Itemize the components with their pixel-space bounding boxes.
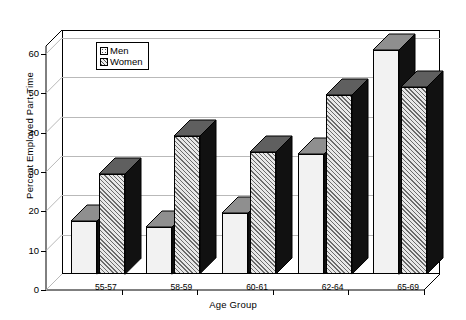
bar-women-60-61 — [250, 152, 276, 274]
x-axis-title: Age Group — [0, 299, 466, 310]
bar-front-face — [99, 174, 125, 274]
legend-item-men: Men — [100, 45, 143, 56]
bar-front-face — [71, 221, 97, 274]
x-tick-label: 62-64 — [303, 282, 363, 292]
bar-men-65-69 — [373, 50, 399, 274]
x-tick-mark — [348, 290, 349, 295]
y-tick-mark — [41, 172, 46, 173]
bar-men-55-57 — [71, 221, 97, 274]
bar-chart: Percent Employed Part-Time 0102030405060… — [0, 0, 466, 320]
bar-front-face — [373, 50, 399, 274]
bar-women-55-57 — [99, 174, 125, 274]
legend-swatch-women-icon — [100, 58, 108, 66]
bar-women-62-64 — [326, 95, 352, 274]
bar-front-face — [222, 213, 248, 274]
y-tick-label: 50 — [13, 87, 39, 98]
bar-front-face — [250, 152, 276, 274]
x-tick-mark — [197, 290, 198, 295]
y-tick-label: 0 — [13, 284, 39, 295]
x-tick-label: 60-61 — [227, 282, 287, 292]
x-tick-mark — [122, 290, 123, 295]
bar-women-65-69 — [401, 87, 427, 274]
x-tick-label: 65-69 — [378, 282, 438, 292]
y-tick-label: 60 — [13, 48, 39, 59]
legend: Men Women — [96, 42, 149, 70]
x-tick-mark — [424, 290, 425, 295]
bar-front-face — [174, 136, 200, 274]
y-tick-label: 40 — [13, 127, 39, 138]
bar-front-face — [401, 87, 427, 274]
legend-label-men: Men — [110, 45, 128, 56]
bar-men-58-59 — [146, 227, 172, 274]
y-tick-mark — [41, 211, 46, 212]
bar-men-62-64 — [298, 154, 324, 274]
y-tick-mark — [41, 251, 46, 252]
y-tick-mark — [41, 133, 46, 134]
bar-front-face — [298, 154, 324, 274]
x-tick-label: 58-59 — [151, 282, 211, 292]
legend-label-women: Women — [110, 56, 143, 67]
legend-item-women: Women — [100, 56, 143, 67]
bar-women-58-59 — [174, 136, 200, 274]
bar-front-face — [146, 227, 172, 274]
bar-men-60-61 — [222, 213, 248, 274]
y-tick-mark — [41, 290, 46, 291]
y-tick-mark — [41, 93, 46, 94]
y-tick-label: 10 — [13, 245, 39, 256]
y-tick-label: 20 — [13, 205, 39, 216]
y-tick-label: 30 — [13, 166, 39, 177]
x-tick-mark — [273, 290, 274, 295]
bar-front-face — [326, 95, 352, 274]
legend-swatch-men-icon — [100, 47, 108, 55]
y-tick-mark — [41, 54, 46, 55]
x-tick-label: 55-57 — [76, 282, 136, 292]
